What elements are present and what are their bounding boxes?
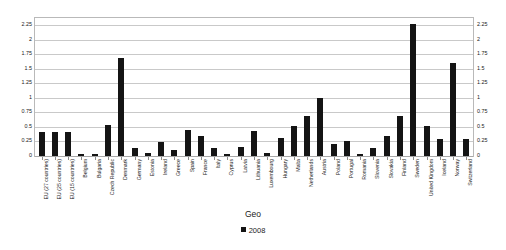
bar-slot — [247, 18, 260, 156]
y-tick-label-left: 1 — [29, 95, 32, 100]
bar[interactable] — [344, 141, 350, 156]
y-tick-label-left: 1.5 — [25, 66, 33, 71]
bar-slot — [48, 18, 61, 156]
bar-slot — [380, 18, 393, 156]
chart-legend: 2008 — [0, 225, 506, 235]
bar[interactable] — [251, 131, 257, 156]
y-tick-label-left: 0.5 — [25, 124, 33, 129]
y-tick-label-left: 0 — [29, 153, 32, 158]
bar-slot — [261, 18, 274, 156]
bar[interactable] — [410, 24, 416, 156]
y-tick-label-right: 1.75 — [477, 51, 488, 56]
bar[interactable] — [224, 154, 230, 156]
bar[interactable] — [291, 126, 297, 156]
bars-layer — [35, 18, 473, 156]
y-tick-label-right: 0.75 — [477, 109, 488, 114]
legend-swatch-2008 — [241, 227, 246, 232]
y-tick-label-left: 2.25 — [22, 22, 33, 27]
y-tick-label-right: 2.25 — [477, 22, 488, 27]
bar-slot — [221, 18, 234, 156]
y-tick-label-right: 0.5 — [477, 124, 485, 129]
bar-slot — [101, 18, 114, 156]
bar-slot — [460, 18, 473, 156]
bar-slot — [420, 18, 433, 156]
bar[interactable] — [278, 138, 284, 156]
y-tick-label-right: 0.25 — [477, 138, 488, 143]
bar[interactable] — [463, 139, 469, 156]
bar-slot — [340, 18, 353, 156]
bar-slot — [128, 18, 141, 156]
bar-slot — [141, 18, 154, 156]
bar-slot — [367, 18, 380, 156]
legend-label-2008: 2008 — [249, 226, 266, 235]
bar-slot — [327, 18, 340, 156]
y-tick-label-right: 1 — [477, 95, 480, 100]
bar-slot — [168, 18, 181, 156]
bar[interactable] — [52, 132, 58, 156]
bar[interactable] — [198, 136, 204, 156]
bar-slot — [433, 18, 446, 156]
bar[interactable] — [450, 63, 456, 156]
bar-slot — [115, 18, 128, 156]
bar[interactable] — [92, 154, 98, 156]
bar[interactable] — [132, 148, 138, 156]
bar[interactable] — [39, 132, 45, 156]
bar-slot — [62, 18, 75, 156]
bar[interactable] — [357, 154, 363, 156]
bar[interactable] — [238, 147, 244, 156]
bar-slot — [154, 18, 167, 156]
bar[interactable] — [304, 116, 310, 156]
y-tick-label-right: 1.5 — [477, 66, 485, 71]
bar[interactable] — [78, 154, 84, 156]
bar[interactable] — [317, 98, 323, 156]
bar-slot — [446, 18, 459, 156]
bar[interactable] — [397, 116, 403, 156]
bar-slot — [234, 18, 247, 156]
bar[interactable] — [145, 153, 151, 156]
bar-slot — [181, 18, 194, 156]
bar-slot — [287, 18, 300, 156]
bar[interactable] — [118, 58, 124, 156]
bar-slot — [274, 18, 287, 156]
bar-slot — [393, 18, 406, 156]
x-axis-category-label: Switzerland — [468, 159, 473, 186]
bar[interactable] — [370, 148, 376, 156]
y-tick-label-right: 1.25 — [477, 80, 488, 85]
bar-slot — [300, 18, 313, 156]
bar-slot — [407, 18, 420, 156]
y-tick-label-left: 1.25 — [22, 80, 33, 85]
bar[interactable] — [437, 139, 443, 156]
y-tick-label-left: 0.25 — [22, 138, 33, 143]
bar[interactable] — [211, 148, 217, 156]
bar[interactable] — [384, 136, 390, 156]
bar-slot — [354, 18, 367, 156]
bar-slot — [314, 18, 327, 156]
bar[interactable] — [424, 126, 430, 156]
bar-slot — [194, 18, 207, 156]
y-tick-label-left: 1.75 — [22, 51, 33, 56]
x-axis-title: Geo — [0, 209, 506, 219]
bar-chart: EU (27 countries)EU (25 countries)EU (15… — [0, 0, 506, 250]
bar[interactable] — [158, 142, 164, 156]
y-tick-label-right: 0 — [477, 153, 480, 158]
bar[interactable] — [185, 130, 191, 156]
bar-slot — [208, 18, 221, 156]
bar[interactable] — [264, 153, 270, 156]
bar-slot — [75, 18, 88, 156]
bar[interactable] — [331, 144, 337, 156]
y-tick-label-left: 0.75 — [22, 109, 33, 114]
bar-slot — [35, 18, 48, 156]
y-tick-label-left: 2 — [29, 37, 32, 42]
y-tick-label-right: 2 — [477, 37, 480, 42]
bar[interactable] — [65, 132, 71, 156]
bar[interactable] — [171, 150, 177, 156]
bar[interactable] — [105, 125, 111, 156]
bar-slot — [88, 18, 101, 156]
